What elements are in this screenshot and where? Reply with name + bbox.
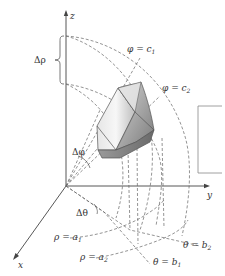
svg-text:φ = c1: φ = c1 [127,44,155,55]
svg-text:ρ = a2: ρ = a2 [79,252,108,263]
x-arrow-icon [13,253,19,260]
delta-theta-label: Δθ [76,208,88,218]
rho-a2-label: ρ = a2 [79,252,108,263]
theta-b1-label: θ = b1 [153,257,181,268]
y-arrow-icon [204,184,210,188]
theta-b2-label: θ = b2 [183,240,211,251]
svg-text:ρ = a1: ρ = a1 [53,232,82,243]
svg-text:θ = b1: θ = b1 [153,257,181,268]
phi-c2-label: φ = c2 [162,83,191,94]
rho-a1-label: ρ = a1 [53,232,82,243]
bracket-mark [198,106,222,173]
svg-text:φ = c2: φ = c2 [162,83,191,94]
delta-phi-label: Δφ [72,147,85,157]
z-axis-label: z [69,11,75,21]
x-axis [13,186,66,260]
delta-theta-arc [94,204,97,214]
y-axis [66,184,210,188]
spherical-wedge-solid [97,82,154,158]
z-arrow-icon [64,10,68,16]
delta-rho-brace [55,36,64,84]
spherical-coordinates-diagram: z y x Δρ Δφ Δθ φ = c1 φ = c2 ρ = a1 ρ = … [0,0,225,276]
svg-text:θ = b2: θ = b2 [183,240,211,251]
x-axis-label: x [18,260,23,270]
phi-c1-label: φ = c1 [127,44,155,55]
y-axis-label: y [206,190,213,200]
delta-rho-label: Δρ [34,55,46,65]
